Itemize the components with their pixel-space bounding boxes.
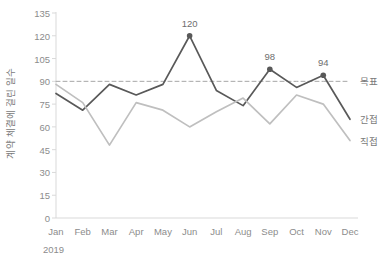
series-label-직접: 직접 [360,134,378,148]
series-label-목표: 목표 [360,74,378,88]
data-point-value-label: 120 [182,18,198,29]
series-label-간접: 간접 [360,112,378,126]
x-tick-label: Feb [75,226,91,237]
x-tick-label: Nov [315,226,332,237]
x-tick-label: Apr [129,226,144,237]
data-point-value-label: 94 [318,57,329,68]
x-axis-tick-labels: JanFebMarAprMayJunJulAugSepOctNovDec [0,0,392,261]
x-tick-label: Jul [210,226,222,237]
x-tick-label: Oct [289,226,304,237]
line-chart: 계약 체결에 걸린 일수 0153045607590105120135 JanF… [0,0,392,261]
x-tick-label: Jan [48,226,63,237]
data-point-value-label: 98 [265,51,276,62]
x-tick-label: Aug [235,226,252,237]
x-tick-label: Sep [261,226,278,237]
x-tick-label: Dec [342,226,359,237]
x-axis-period-label: 2019 [43,244,64,255]
x-tick-label: Jun [182,226,197,237]
x-tick-label: May [154,226,172,237]
x-tick-label: Mar [101,226,117,237]
